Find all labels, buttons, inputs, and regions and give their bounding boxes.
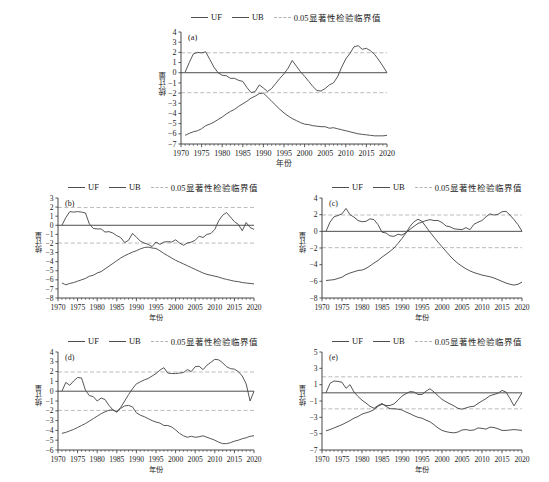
legend-critical-label: 0.05显著性检验临界值 [435,181,522,193]
x-axis-title: 年份 [322,311,522,322]
series-line-uf [326,381,522,433]
legend-ub-label: UB [393,182,405,192]
dashed-swatch-icon [151,187,168,188]
legend: UFUB0.05显著性检验临界值 [332,335,522,347]
line-swatch-ub-icon [109,341,126,342]
y-tick-label: −2 [45,406,53,415]
legend-ub[interactable]: UB [109,336,141,346]
legend: UFUB0.05显著性检验临界值 [68,181,258,193]
series-line-uf [326,208,522,236]
plot-area: (e)531−1−3−5−719701975198019851990199520… [280,334,546,482]
legend-uf-label: UF [352,336,363,346]
y-tick-label: −3 [45,416,53,425]
line-swatch-uf-icon [68,187,85,188]
legend-uf[interactable]: UF [332,182,363,192]
legend-uf[interactable]: UF [191,12,222,22]
y-tick-label: −4 [309,260,317,269]
y-tick-label: −7 [45,285,53,294]
legend-uf-label: UF [88,336,99,346]
dashed-swatch-icon [415,187,432,188]
line-swatch-ub-icon [373,341,390,342]
series-line-ub [326,389,522,431]
y-tick-label: −6 [45,275,53,284]
legend-critical-label: 0.05显著性检验临界值 [294,11,381,23]
y-axis-title: 统计量 [34,232,44,253]
y-tick-label: 1 [50,212,54,221]
line-swatch-ub-icon [373,187,390,188]
series-line-ub [326,219,522,285]
y-tick-label: −5 [309,429,317,438]
y-tick-label: −1 [309,397,317,406]
legend-critical[interactable]: 0.05显著性检验临界值 [151,335,258,347]
legend-ub[interactable]: UB [109,182,141,192]
y-tick-label: 2 [50,203,54,212]
legend-ub-label: UB [129,336,141,346]
panel-tag: (c) [329,199,338,208]
legend: UFUB0.05显著性检验临界值 [191,11,381,23]
x-axis-title: 年份 [181,157,387,168]
y-tick-label: −6 [45,446,53,455]
series-line-uf [62,212,254,247]
legend-uf[interactable]: UF [68,182,99,192]
y-tick-label: 4 [50,348,54,357]
y-tick-label: −3 [45,248,53,257]
legend-ub-label: UB [129,182,141,192]
y-tick-label: 1 [314,380,318,389]
y-tick-label: −5 [168,119,177,128]
x-axis-title: 年份 [322,463,522,474]
legend-critical[interactable]: 0.05显著性检验临界值 [274,11,381,23]
y-tick-label: −5 [45,266,53,275]
legend-ub[interactable]: UB [232,12,264,22]
line-swatch-ub-icon [232,17,249,18]
y-tick-label: −5 [45,436,53,445]
legend-critical[interactable]: 0.05显著性检验临界值 [415,335,522,347]
y-tick-label: 2 [173,48,177,57]
dashed-swatch-icon [274,17,291,18]
plot-area: (c)420−2−4−6−819701975198019851990199520… [280,180,546,332]
y-tick-label: −6 [168,129,177,138]
legend-uf-label: UF [211,12,222,22]
legend-critical[interactable]: 0.05显著性检验临界值 [415,181,522,193]
y-tick-label: −7 [168,140,177,149]
y-tick-label: 0 [314,227,318,236]
y-tick-label: −1 [45,397,53,406]
legend-ub[interactable]: UB [373,182,405,192]
y-tick-label: 2 [314,210,318,219]
line-swatch-uf-icon [68,341,85,342]
y-tick-label: 0 [173,68,177,77]
legend-ub-label: UB [393,336,405,346]
legend-ub[interactable]: UB [373,336,405,346]
series-line-ub [185,93,387,136]
plot-area: (d)43210−1−2−3−4−5−619701975198019851990… [18,334,276,482]
plot-area: (b)3210−1−2−3−4−5−6−7−819701975198019851… [18,180,276,332]
y-tick-label: 0 [50,221,54,230]
y-tick-label: −4 [45,257,53,266]
legend: UFUB0.05显著性检验临界值 [68,335,258,347]
y-tick-label: −4 [45,426,53,435]
panel-b: UFUB0.05显著性检验临界值(b)3210−1−2−3−4−5−6−7−81… [18,180,276,332]
panel-tag: (d) [65,353,75,362]
y-axis-title: 统计量 [298,232,308,253]
y-axis-title: 统计量 [34,385,44,406]
line-swatch-ub-icon [109,187,126,188]
y-tick-label: −4 [168,109,177,118]
y-tick-label: 4 [173,28,177,37]
y-axis-title: 统计量 [298,385,308,406]
line-swatch-uf-icon [191,17,208,18]
legend: UFUB0.05显著性检验临界值 [332,181,522,193]
y-tick-label: −2 [168,89,177,98]
y-tick-label: −2 [309,244,317,253]
legend-critical-label: 0.05显著性检验临界值 [171,335,258,347]
y-tick-label: 4 [314,194,318,203]
panel-e: UFUB0.05显著性检验临界值(e)531−1−3−5−71970197519… [280,334,546,482]
legend-uf-label: UF [352,182,363,192]
legend-critical-label: 0.05显著性检验临界值 [171,181,258,193]
y-tick-label: 0 [50,387,54,396]
legend-uf[interactable]: UF [332,336,363,346]
legend-uf[interactable]: UF [68,336,99,346]
y-tick-label: 2 [50,367,54,376]
legend-critical[interactable]: 0.05显著性检验临界值 [151,181,258,193]
x-axis-title: 年份 [58,311,254,322]
dashed-swatch-icon [415,341,432,342]
series-line-ub [62,247,254,285]
